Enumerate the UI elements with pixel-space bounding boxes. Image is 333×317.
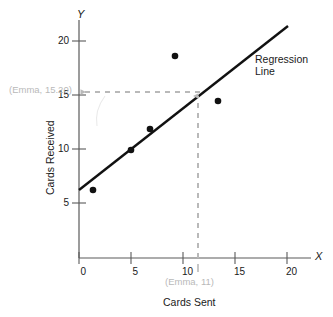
- regression-scatter-chart: Y X 20 15 10 5 0 5 10 15 20 Cards Receiv…: [0, 0, 333, 317]
- data-point: [147, 126, 154, 133]
- input-value-annotation: (Emma, 11): [165, 276, 214, 287]
- x-tick-label-0: 0: [72, 266, 86, 277]
- x-axis-name: X: [315, 250, 322, 262]
- data-point: [90, 187, 97, 194]
- regression-line-label-line2: Line: [255, 65, 275, 77]
- regression-line-label-line1: Regression: [255, 53, 308, 65]
- predicted-value-annotation: (Emma, 15.20): [9, 84, 72, 95]
- y-axis-name: Y: [77, 8, 84, 20]
- y-tick-label-20: 20: [50, 35, 69, 46]
- x-axis-title: Cards Sent: [163, 296, 216, 308]
- scan-artifact: [96, 96, 105, 126]
- x-tick-label-20: 20: [277, 266, 297, 277]
- data-point: [215, 98, 222, 105]
- data-point: [172, 53, 179, 60]
- data-points: [90, 53, 222, 194]
- y-tick-label-5: 5: [50, 197, 69, 208]
- y-axis-title: Cards Received: [44, 120, 56, 195]
- x-tick-label-5: 5: [124, 266, 138, 277]
- x-tick-label-15: 15: [225, 266, 245, 277]
- data-point: [128, 147, 135, 154]
- regression-line: [79, 26, 288, 190]
